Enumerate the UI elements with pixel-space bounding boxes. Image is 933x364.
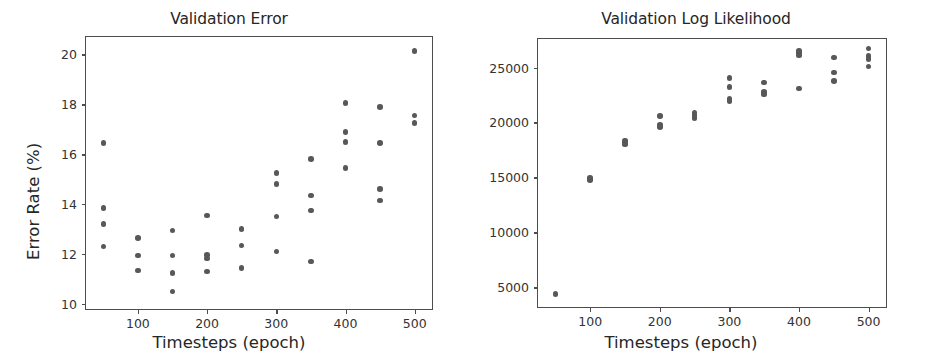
data-point — [727, 84, 733, 90]
data-point — [377, 104, 383, 110]
y-axis-tick — [82, 254, 87, 255]
x-axis-tick-label-validation-error: 100 — [126, 316, 150, 331]
data-point — [308, 193, 314, 199]
x-axis-tick — [869, 307, 870, 312]
data-point — [204, 269, 210, 275]
data-point — [412, 48, 418, 54]
data-point — [377, 140, 383, 146]
x-axis-tick — [346, 309, 347, 314]
x-axis-tick-label-validation-log-likelihood: 500 — [857, 314, 881, 329]
data-point — [135, 253, 141, 259]
data-point — [412, 113, 418, 119]
x-axis-tick-label-validation-log-likelihood: 200 — [648, 314, 672, 329]
x-axis-label-validation-error: Timesteps (epoch) — [19, 333, 439, 352]
data-point — [274, 214, 280, 220]
x-axis-tick — [207, 309, 208, 314]
data-point — [308, 208, 314, 214]
y-axis-tick — [82, 154, 87, 155]
data-point — [135, 268, 141, 274]
data-point — [831, 70, 837, 76]
scatter-points-validation-error — [86, 37, 432, 309]
data-point — [101, 140, 107, 146]
y-axis-tick-label-validation-log-likelihood: 10000 — [489, 225, 529, 240]
data-point — [866, 46, 872, 52]
x-axis-label-validation-log-likelihood: Timesteps (epoch) — [471, 333, 891, 352]
data-point — [727, 98, 733, 104]
x-axis-tick — [276, 309, 277, 314]
data-point — [796, 53, 802, 59]
data-point — [622, 142, 628, 148]
data-point — [343, 139, 349, 145]
data-point — [761, 92, 767, 98]
data-point — [587, 177, 593, 183]
y-axis-tick-label-validation-error: 18 — [61, 97, 77, 112]
x-axis-tick-label-validation-error: 200 — [195, 316, 219, 331]
data-point — [761, 80, 767, 86]
y-axis-tick — [82, 104, 87, 105]
y-axis-tick-label-validation-log-likelihood: 15000 — [489, 170, 529, 185]
data-point — [101, 221, 107, 227]
validation-error-panel: Validation Error 10020030040050010121416… — [0, 0, 466, 364]
data-point — [204, 256, 210, 262]
y-axis-tick — [534, 122, 539, 123]
data-point — [274, 249, 280, 255]
data-point — [343, 100, 349, 106]
data-point — [727, 75, 733, 81]
data-point — [657, 124, 663, 130]
data-point — [239, 243, 245, 249]
x-axis-tick-label-validation-log-likelihood: 100 — [578, 314, 602, 329]
data-point — [308, 259, 314, 265]
data-point — [274, 170, 280, 176]
data-point — [412, 120, 418, 126]
data-point — [831, 78, 837, 84]
data-point — [170, 289, 176, 295]
scatter-points-validation-log-likelihood — [538, 39, 886, 307]
data-point — [343, 165, 349, 171]
y-axis-tick — [534, 177, 539, 178]
data-point — [308, 156, 314, 162]
plot-area-validation-error: 100200300400500101214161820 — [85, 36, 433, 310]
y-axis-tick — [534, 232, 539, 233]
data-point — [274, 181, 280, 187]
y-axis-tick-label-validation-log-likelihood: 5000 — [497, 280, 529, 295]
data-point — [135, 235, 141, 241]
data-point — [101, 205, 107, 211]
data-point — [831, 55, 837, 61]
x-axis-tick — [660, 307, 661, 312]
data-point — [377, 198, 383, 204]
data-point — [866, 56, 872, 62]
x-axis-tick-label-validation-error: 400 — [334, 316, 358, 331]
y-axis-tick-label-validation-error: 16 — [61, 147, 77, 162]
x-axis-tick — [729, 307, 730, 312]
y-axis-tick-label-validation-log-likelihood: 25000 — [489, 60, 529, 75]
validation-log-likelihood-panel: Validation Log Likelihood 10020030040050… — [466, 0, 933, 364]
plot-area-validation-log-likelihood: 100200300400500500010000150002000025000 — [537, 38, 887, 308]
chart-title-validation-error: Validation Error — [19, 10, 439, 28]
y-axis-tick-label-validation-error: 12 — [61, 247, 77, 262]
data-point — [343, 129, 349, 135]
x-axis-tick — [799, 307, 800, 312]
y-axis-tick — [534, 287, 539, 288]
y-axis-tick-label-validation-error: 14 — [61, 197, 77, 212]
y-axis-tick — [534, 68, 539, 69]
y-axis-label-validation-error: Error Rate (%) — [24, 143, 43, 260]
y-axis-tick — [82, 304, 87, 305]
data-point — [692, 115, 698, 121]
data-point — [553, 291, 559, 297]
data-point — [170, 228, 176, 234]
x-axis-tick — [590, 307, 591, 312]
data-point — [796, 86, 802, 92]
data-point — [170, 253, 176, 259]
figure-canvas: Validation Error 10020030040050010121416… — [0, 0, 933, 364]
y-axis-tick-label-validation-log-likelihood: 20000 — [489, 115, 529, 130]
data-point — [657, 113, 663, 119]
y-axis-tick-label-validation-error: 20 — [61, 47, 77, 62]
data-point — [170, 270, 176, 276]
x-axis-tick-label-validation-log-likelihood: 300 — [717, 314, 741, 329]
data-point — [204, 213, 210, 219]
x-axis-tick — [138, 309, 139, 314]
data-point — [377, 186, 383, 192]
data-point — [239, 265, 245, 271]
x-axis-tick-label-validation-error: 500 — [403, 316, 427, 331]
x-axis-tick-label-validation-log-likelihood: 400 — [787, 314, 811, 329]
